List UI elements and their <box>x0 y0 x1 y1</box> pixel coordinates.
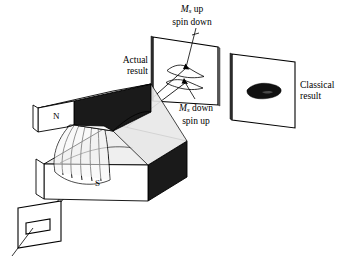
collimator-plate <box>12 201 61 256</box>
label-actual-result-line2: result <box>127 66 148 76</box>
label-ms-up: Ms up spin down <box>158 4 226 27</box>
label-classical-result: Classical result <box>300 80 350 101</box>
label-ms-down-subscript: s <box>187 106 190 113</box>
label-north-pole: N <box>53 111 60 121</box>
stern-gerlach-figure: Ms up spin down Ms down spin up Actual r… <box>0 0 351 258</box>
actual-screen-right-edge <box>218 47 220 106</box>
label-south-pole: S <box>95 178 100 188</box>
label-ms-down-word: down <box>192 103 213 113</box>
label-ms-up-subscript: s <box>189 7 192 14</box>
label-classical-result-line1: Classical <box>300 80 334 90</box>
label-ms-down-line1: Ms down <box>179 103 213 113</box>
figure-drawing <box>0 0 351 258</box>
upper-magnet-left-face <box>33 105 38 132</box>
label-ms-down-symbol: M <box>179 103 187 113</box>
leader-ms-up-tick <box>192 33 199 35</box>
actual-result-screen <box>151 36 220 106</box>
field-region-fill <box>54 125 110 180</box>
label-actual-result: Actual result <box>96 55 148 76</box>
label-actual-result-line1: Actual <box>123 55 148 65</box>
label-classical-result-line2: result <box>300 91 321 101</box>
classical-result-screen <box>230 53 295 128</box>
label-ms-down: Ms down spin up <box>156 103 236 126</box>
label-ms-up-symbol: M <box>181 4 189 14</box>
label-ms-up-word: up <box>194 4 204 14</box>
label-ms-down-line2: spin up <box>182 116 210 126</box>
lower-magnet-left-face <box>36 159 44 199</box>
label-ms-up-line1: Ms up <box>181 4 203 14</box>
label-ms-up-line2: spin down <box>172 17 211 27</box>
